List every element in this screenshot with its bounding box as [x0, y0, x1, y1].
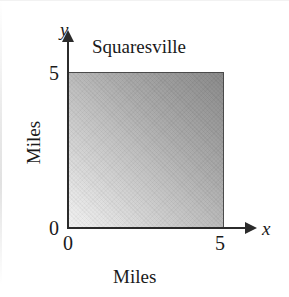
y-axis-tick-label-5: 5 — [49, 63, 59, 83]
y-axis-tick-label-0: 0 — [49, 218, 59, 238]
scan-edge-top — [0, 0, 289, 1]
region-texture — [69, 73, 223, 227]
x-axis-line — [67, 227, 247, 229]
plot-title: Squaresville — [92, 37, 186, 56]
x-axis-variable-label: x — [262, 219, 270, 238]
x-axis-tick-label-0: 0 — [63, 233, 73, 253]
squaresville-region — [68, 72, 224, 228]
x-axis-tick-label-5: 5 — [215, 233, 225, 253]
x-axis-title: Miles — [113, 267, 156, 286]
x-axis-arrow-icon — [245, 222, 257, 234]
scan-edge-left — [0, 0, 2, 297]
y-axis-title: Miles — [24, 108, 43, 178]
y-axis-variable-label: y — [60, 20, 68, 39]
y-axis-line — [67, 40, 69, 229]
squaresville-figure: Squaresville y x 5 0 0 5 Miles Miles — [0, 0, 289, 297]
